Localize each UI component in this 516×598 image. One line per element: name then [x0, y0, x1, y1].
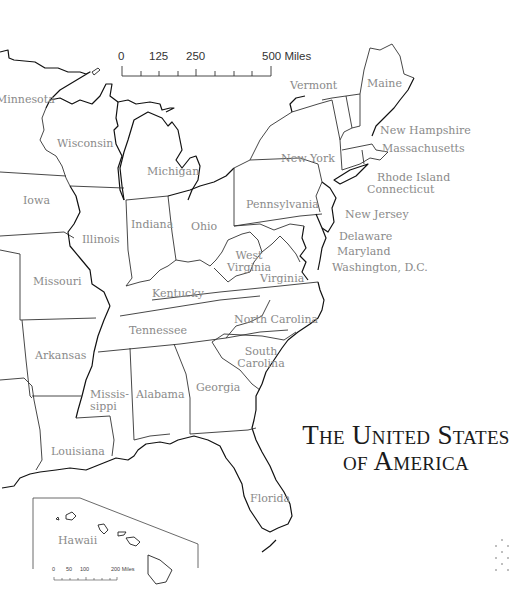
- label-virginia: Virginia: [260, 273, 304, 285]
- label-vermont: Vermont: [290, 80, 337, 92]
- hawaii-scale-tick-100: 100: [80, 566, 89, 572]
- label-north-carolina: North Carolina: [234, 314, 318, 326]
- label-georgia: Georgia: [196, 382, 240, 394]
- scale-tick-125: 125: [149, 50, 168, 62]
- label-florida: Florida: [250, 493, 290, 505]
- scale-bar-graphic: [122, 66, 271, 76]
- label-new-jersey: New Jersey: [345, 209, 409, 221]
- label-arkansas: Arkansas: [35, 350, 86, 362]
- label-indiana: Indiana: [131, 219, 173, 231]
- label-hawaii: Hawaii: [58, 535, 97, 547]
- label-delaware: Delaware: [339, 231, 392, 243]
- label-tennessee: Tennessee: [129, 325, 187, 337]
- us-map: [0, 0, 516, 598]
- label-massachusetts: Massachusetts: [382, 143, 465, 155]
- hawaii-scale-tick-0: 0: [52, 566, 55, 572]
- label-new-york: New York: [281, 153, 335, 165]
- label-new-hampshire: New Hampshire: [380, 125, 471, 137]
- label-maine: Maine: [367, 78, 402, 90]
- label-michigan: Michigan: [147, 166, 199, 178]
- label-ohio: Ohio: [191, 221, 217, 233]
- label-maryland: Maryland: [337, 246, 391, 258]
- label-missouri: Missouri: [33, 276, 82, 288]
- label-mississippi: Missis- sippi: [90, 389, 129, 413]
- label-kentucky: Kentucky: [152, 288, 204, 300]
- scale-tick-250: 250: [186, 50, 205, 62]
- label-west-virginia: West Virginia: [226, 250, 272, 274]
- label-illinois: Illinois: [82, 234, 120, 246]
- hawaii-scale-tick-50: 50: [66, 566, 72, 572]
- scale-tick-500: 500 Miles: [262, 50, 311, 62]
- label-wisconsin: Wisconsin: [57, 138, 113, 150]
- label-south-carolina: South Carolina: [234, 346, 288, 370]
- label-louisiana: Louisiana: [51, 446, 105, 458]
- scale-tick-0: 0: [118, 50, 124, 62]
- label-pennsylvania: Pennsylvania: [246, 199, 319, 211]
- map-title: The United States of America: [300, 422, 512, 474]
- label-minnesota: Minnesota: [0, 94, 55, 106]
- label-alabama: Alabama: [136, 389, 185, 401]
- label-iowa: Iowa: [23, 195, 50, 207]
- label-connecticut: Connecticut: [367, 184, 434, 196]
- hawaii-islands: [56, 512, 172, 584]
- hawaii-scale-tick-200: 200 Miles: [111, 566, 135, 572]
- label-washington-dc: Washington, D.C.: [332, 262, 428, 274]
